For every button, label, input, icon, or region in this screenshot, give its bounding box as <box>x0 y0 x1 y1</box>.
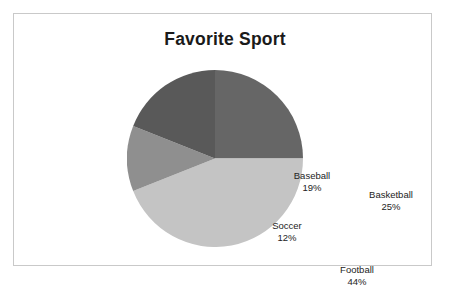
chart-title: Favorite Sport <box>0 29 450 50</box>
pie-label-football: Football 44% <box>324 264 390 286</box>
pie-label-baseball-name: Baseball <box>294 170 330 181</box>
pie-label-baseball-value: 19% <box>279 182 345 194</box>
pie-label-soccer-value: 12% <box>261 232 313 244</box>
pie-label-football-value: 44% <box>324 276 390 286</box>
pie-slice-basketball <box>215 70 303 159</box>
chart-canvas: Favorite Sport Basketball 25% Football 4… <box>0 0 450 286</box>
pie-label-basketball: Basketball 25% <box>355 189 427 212</box>
pie-label-basketball-name: Basketball <box>369 189 413 200</box>
pie-label-baseball: Baseball 19% <box>279 170 345 193</box>
pie-chart: Basketball 25% Football 44% Soccer 12% B… <box>127 70 303 247</box>
pie-label-soccer: Soccer 12% <box>261 220 313 243</box>
pie-label-basketball-value: 25% <box>355 201 427 213</box>
pie-label-football-name: Football <box>340 264 374 275</box>
pie-label-soccer-name: Soccer <box>272 220 302 231</box>
